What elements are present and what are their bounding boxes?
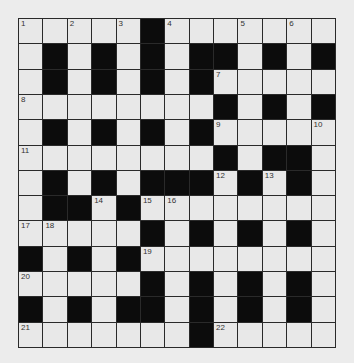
grid-cell[interactable] bbox=[43, 323, 66, 347]
grid-cell[interactable]: 17 bbox=[19, 221, 42, 245]
grid-cell[interactable] bbox=[165, 297, 188, 321]
grid-cell[interactable] bbox=[263, 221, 286, 245]
grid-cell[interactable]: 16 bbox=[165, 196, 188, 220]
grid-cell[interactable] bbox=[287, 247, 310, 271]
grid-cell[interactable] bbox=[165, 247, 188, 271]
grid-cell[interactable] bbox=[68, 221, 91, 245]
grid-cell[interactable] bbox=[68, 171, 91, 195]
grid-cell[interactable] bbox=[238, 323, 261, 347]
grid-cell[interactable] bbox=[92, 247, 115, 271]
grid-cell[interactable] bbox=[165, 44, 188, 68]
grid-cell[interactable] bbox=[43, 247, 66, 271]
grid-cell[interactable] bbox=[68, 120, 91, 144]
grid-cell[interactable] bbox=[141, 95, 164, 119]
grid-cell[interactable]: 7 bbox=[214, 70, 237, 94]
grid-cell[interactable] bbox=[263, 297, 286, 321]
grid-cell[interactable]: 4 bbox=[165, 19, 188, 43]
grid-cell[interactable] bbox=[238, 95, 261, 119]
grid-cell[interactable] bbox=[117, 146, 140, 170]
grid-cell[interactable] bbox=[312, 272, 335, 296]
grid-cell[interactable] bbox=[141, 146, 164, 170]
grid-cell[interactable] bbox=[263, 120, 286, 144]
grid-cell[interactable] bbox=[117, 44, 140, 68]
grid-cell[interactable] bbox=[190, 146, 213, 170]
grid-cell[interactable]: 15 bbox=[141, 196, 164, 220]
grid-cell[interactable] bbox=[214, 247, 237, 271]
grid-cell[interactable] bbox=[43, 272, 66, 296]
grid-cell[interactable] bbox=[214, 221, 237, 245]
grid-cell[interactable] bbox=[263, 272, 286, 296]
grid-cell[interactable] bbox=[68, 95, 91, 119]
grid-cell[interactable]: 8 bbox=[19, 95, 42, 119]
grid-cell[interactable] bbox=[117, 171, 140, 195]
grid-cell[interactable] bbox=[238, 247, 261, 271]
grid-cell[interactable] bbox=[312, 297, 335, 321]
grid-cell[interactable] bbox=[312, 19, 335, 43]
grid-cell[interactable] bbox=[214, 297, 237, 321]
grid-cell[interactable]: 13 bbox=[263, 171, 286, 195]
grid-cell[interactable] bbox=[92, 323, 115, 347]
grid-cell[interactable] bbox=[92, 19, 115, 43]
grid-cell[interactable] bbox=[238, 44, 261, 68]
grid-cell[interactable] bbox=[165, 272, 188, 296]
grid-cell[interactable]: 2 bbox=[68, 19, 91, 43]
grid-cell[interactable]: 21 bbox=[19, 323, 42, 347]
grid-cell[interactable] bbox=[214, 196, 237, 220]
grid-cell[interactable] bbox=[92, 146, 115, 170]
grid-cell[interactable] bbox=[312, 146, 335, 170]
grid-cell[interactable] bbox=[19, 44, 42, 68]
grid-cell[interactable] bbox=[117, 95, 140, 119]
grid-cell[interactable] bbox=[263, 196, 286, 220]
grid-cell[interactable]: 11 bbox=[19, 146, 42, 170]
grid-cell[interactable] bbox=[68, 70, 91, 94]
grid-cell[interactable] bbox=[165, 120, 188, 144]
grid-cell[interactable]: 5 bbox=[238, 19, 261, 43]
grid-cell[interactable] bbox=[287, 44, 310, 68]
grid-cell[interactable] bbox=[263, 70, 286, 94]
grid-cell[interactable] bbox=[312, 323, 335, 347]
grid-cell[interactable] bbox=[214, 19, 237, 43]
grid-cell[interactable] bbox=[263, 247, 286, 271]
grid-cell[interactable] bbox=[117, 120, 140, 144]
grid-cell[interactable]: 22 bbox=[214, 323, 237, 347]
grid-cell[interactable] bbox=[238, 120, 261, 144]
grid-cell[interactable] bbox=[190, 247, 213, 271]
grid-cell[interactable] bbox=[263, 323, 286, 347]
grid-cell[interactable] bbox=[165, 70, 188, 94]
grid-cell[interactable] bbox=[19, 120, 42, 144]
grid-cell[interactable]: 20 bbox=[19, 272, 42, 296]
grid-cell[interactable] bbox=[214, 272, 237, 296]
grid-cell[interactable] bbox=[43, 19, 66, 43]
grid-cell[interactable] bbox=[92, 95, 115, 119]
grid-cell[interactable]: 12 bbox=[214, 171, 237, 195]
grid-cell[interactable] bbox=[68, 272, 91, 296]
grid-cell[interactable]: 3 bbox=[117, 19, 140, 43]
grid-cell[interactable] bbox=[19, 196, 42, 220]
grid-cell[interactable] bbox=[238, 196, 261, 220]
grid-cell[interactable] bbox=[19, 171, 42, 195]
grid-cell[interactable] bbox=[190, 95, 213, 119]
grid-cell[interactable] bbox=[43, 146, 66, 170]
grid-cell[interactable] bbox=[165, 221, 188, 245]
grid-cell[interactable]: 14 bbox=[92, 196, 115, 220]
grid-cell[interactable] bbox=[117, 323, 140, 347]
grid-cell[interactable] bbox=[19, 70, 42, 94]
grid-cell[interactable] bbox=[92, 221, 115, 245]
grid-cell[interactable] bbox=[165, 95, 188, 119]
grid-cell[interactable] bbox=[141, 323, 164, 347]
grid-cell[interactable] bbox=[287, 95, 310, 119]
grid-cell[interactable] bbox=[43, 297, 66, 321]
grid-cell[interactable] bbox=[190, 19, 213, 43]
grid-cell[interactable] bbox=[117, 70, 140, 94]
grid-cell[interactable] bbox=[312, 70, 335, 94]
grid-cell[interactable] bbox=[43, 95, 66, 119]
grid-cell[interactable] bbox=[117, 272, 140, 296]
grid-cell[interactable] bbox=[117, 221, 140, 245]
grid-cell[interactable] bbox=[287, 70, 310, 94]
grid-cell[interactable] bbox=[68, 44, 91, 68]
grid-cell[interactable]: 6 bbox=[287, 19, 310, 43]
grid-cell[interactable]: 9 bbox=[214, 120, 237, 144]
grid-cell[interactable]: 1 bbox=[19, 19, 42, 43]
grid-cell[interactable] bbox=[68, 323, 91, 347]
grid-cell[interactable] bbox=[287, 196, 310, 220]
